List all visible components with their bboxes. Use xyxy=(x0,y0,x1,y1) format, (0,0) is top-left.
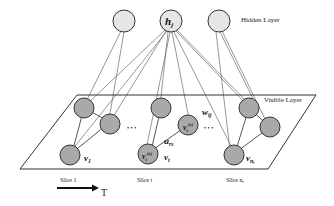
time-axis-label: T xyxy=(101,187,107,198)
visible-node xyxy=(239,98,259,118)
slice-t-label: Slice t xyxy=(137,177,152,183)
visible-node xyxy=(60,145,80,165)
visible-node xyxy=(74,98,94,118)
slice-t-var: vt xyxy=(164,152,170,163)
slice-nt-var: vnt xyxy=(246,153,255,165)
visible-layer-label: Visible Layer xyxy=(264,96,303,104)
hidden-node xyxy=(113,10,135,32)
visible-node xyxy=(224,145,244,165)
visible-node xyxy=(260,117,280,137)
visible-node xyxy=(100,114,120,134)
hidden-layer: hj Hidden Layer xyxy=(113,10,280,32)
slice-1-var: v1 xyxy=(84,153,91,164)
ellipsis: • • • xyxy=(204,125,213,131)
time-arrow: T xyxy=(57,185,107,199)
slice-nt-label: Slice nt xyxy=(226,177,245,184)
weight-label: wij xyxy=(202,107,212,118)
visible-node xyxy=(151,98,171,118)
hidden-layer-label: Hidden Layer xyxy=(241,16,280,24)
ellipsis: • • • xyxy=(127,125,136,131)
rbm-diagram: hj Hidden Layer Visible Layer • • • • • … xyxy=(0,0,334,206)
connections xyxy=(72,30,268,150)
slice-1-label: Slice 1 xyxy=(60,177,77,183)
hidden-node xyxy=(208,10,230,32)
